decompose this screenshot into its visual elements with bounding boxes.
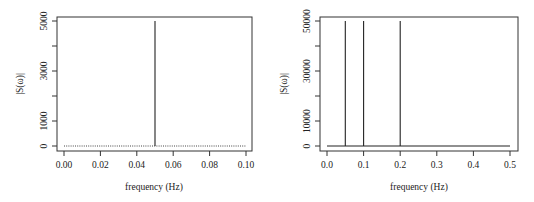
x-tick-label: 0.04 [128, 160, 145, 170]
x-tick-label: 0.4 [467, 160, 479, 170]
y-tick-label: 0 [302, 143, 312, 148]
y-tick-label: 50000 [302, 9, 312, 33]
right-plot-frame [320, 17, 518, 151]
left-y-axis-title: |S(ω)| [15, 73, 26, 95]
y-tick-label: 30000 [302, 59, 312, 83]
y-tick-label: 0 [39, 143, 49, 148]
x-tick-label: 0.1 [358, 160, 370, 170]
y-tick-label: 1000 [39, 111, 49, 130]
left-spectrum-chart: 0100030005000 0.000.020.040.060.080.10 f… [15, 11, 255, 193]
right-series [327, 21, 510, 146]
y-tick-label: 5000 [39, 11, 49, 30]
right-x-axis-title: frequency (Hz) [390, 182, 448, 193]
x-tick-label: 0.06 [165, 160, 182, 170]
x-tick-label: 0.02 [92, 160, 109, 170]
spectrum-plots: 0100030005000 0.000.020.040.060.080.10 f… [0, 0, 534, 202]
x-tick-label: 0.08 [201, 160, 218, 170]
right-y-axis: 0100003000050000 [302, 9, 320, 149]
right-spectrum-chart: 0100003000050000 0.00.10.20.30.40.5 freq… [279, 9, 518, 193]
left-x-axis: 0.000.020.040.060.080.10 [56, 151, 255, 170]
left-x-axis-title: frequency (Hz) [125, 182, 183, 193]
y-tick-label: 10000 [302, 109, 312, 133]
x-tick-label: 0.00 [56, 160, 73, 170]
left-y-axis: 0100030005000 [39, 11, 57, 148]
x-tick-label: 0.3 [431, 160, 443, 170]
x-tick-label: 0.2 [394, 160, 406, 170]
y-tick-label: 3000 [39, 61, 49, 80]
right-y-axis-title: |S(ω)| [279, 73, 290, 95]
left-series [64, 21, 246, 146]
x-tick-label: 0.10 [238, 160, 255, 170]
right-x-axis: 0.00.10.20.30.40.5 [321, 151, 516, 170]
x-tick-label: 0.5 [504, 160, 516, 170]
x-tick-label: 0.0 [321, 160, 333, 170]
